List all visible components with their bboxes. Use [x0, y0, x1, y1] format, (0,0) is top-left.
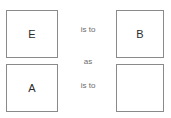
connector-is-to-first: is to: [64, 26, 112, 34]
cell-letter-bottom-left: A: [28, 83, 35, 94]
cell-letter-top-left: E: [28, 29, 35, 40]
cell-letter-top-right: B: [136, 29, 143, 40]
connector-is-to-second: is to: [64, 82, 112, 90]
analogy-puzzle: E A B is to as is to: [0, 0, 171, 118]
analogy-cell-bottom-left[interactable]: A: [6, 64, 58, 112]
analogy-cell-top-left[interactable]: E: [6, 10, 58, 58]
analogy-cell-bottom-right-answer[interactable]: [116, 64, 164, 112]
analogy-cell-top-right[interactable]: B: [116, 10, 164, 58]
connector-as: as: [64, 58, 112, 66]
